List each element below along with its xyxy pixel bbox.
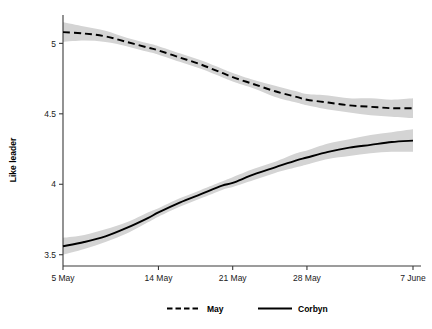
y-axis-tick-labels: 3.544.55 bbox=[44, 39, 56, 260]
x-tick-label: 5 May bbox=[51, 273, 75, 283]
x-tick-label: 14 May bbox=[145, 273, 174, 283]
x-axis-ticks bbox=[63, 266, 413, 270]
line-chart: 3.544.55 5 May14 May21 May28 May7 June L… bbox=[0, 0, 432, 329]
chart-container: 3.544.55 5 May14 May21 May28 May7 June L… bbox=[0, 0, 432, 329]
confidence-band-corbyn bbox=[63, 129, 413, 254]
y-tick-label: 3.5 bbox=[44, 250, 56, 260]
confidence-band-may bbox=[63, 22, 413, 118]
x-tick-label: 21 May bbox=[219, 273, 248, 283]
y-tick-label: 4.5 bbox=[44, 109, 56, 119]
y-tick-label: 5 bbox=[51, 39, 56, 49]
y-axis-ticks bbox=[59, 43, 63, 254]
chart-legend: May Corbyn bbox=[167, 304, 328, 314]
x-tick-label: 7 June bbox=[400, 273, 426, 283]
legend-label-may: May bbox=[207, 304, 224, 314]
confidence-bands bbox=[63, 22, 413, 255]
legend-label-corbyn: Corbyn bbox=[298, 304, 328, 314]
y-axis-title: Like leader bbox=[8, 137, 18, 182]
x-tick-label: 28 May bbox=[293, 273, 322, 283]
x-axis-tick-labels: 5 May14 May21 May28 May7 June bbox=[51, 273, 426, 283]
y-tick-label: 4 bbox=[51, 179, 56, 189]
